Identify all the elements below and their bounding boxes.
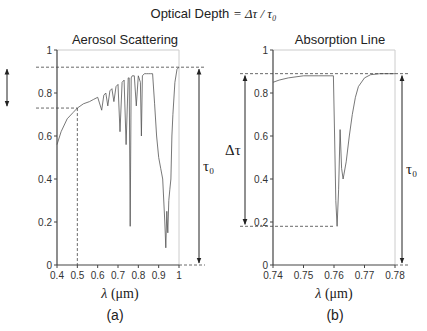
right-y-tick-label: 0 <box>262 260 268 271</box>
unit-label: (μm) <box>107 286 138 301</box>
right-x-tick-label: 0.76 <box>324 270 344 281</box>
left-y-tick-label: 0.2 <box>38 217 52 228</box>
left-y-tick-label: 1 <box>46 45 52 56</box>
left-caption: (a) <box>100 307 130 323</box>
left-x-tick-label: 1 <box>176 270 182 281</box>
right-y-tick-label: 0.6 <box>254 131 268 142</box>
left-x-tick-label: 0.8 <box>131 270 145 281</box>
left-y-tick-label: 0.8 <box>38 88 52 99</box>
left-y-tick-label: 0.4 <box>38 174 52 185</box>
right-x-axis-label: λ (μm) <box>294 286 374 302</box>
left-x-tick-label: 0.4 <box>50 270 64 281</box>
right-y-tick-label: 1 <box>262 45 268 56</box>
right-y-tick-label: 0.8 <box>254 88 268 99</box>
right-data-line <box>273 74 395 227</box>
right-delta-tau-label: Δτ <box>225 142 241 158</box>
right-y-tick-label: 0.2 <box>254 217 268 228</box>
right-x-tick-label: 0.78 <box>385 270 405 281</box>
left-y-tick-label: 0 <box>46 260 52 271</box>
left-y-tick-label: 0.6 <box>38 131 52 142</box>
right-x-tick-label: 0.74 <box>263 270 283 281</box>
left-x-tick-label: 0.5 <box>70 270 84 281</box>
left-x-tick-label: 0.9 <box>152 270 166 281</box>
left-tau0-label: τ₀ <box>203 158 214 174</box>
left-data-line <box>57 67 179 248</box>
right-x-tick-label: 0.77 <box>355 270 375 281</box>
charts-canvas: 00.20.40.60.810.40.50.60.70.80.91Δττ₀00.… <box>0 0 427 331</box>
left-x-axis-label: λ (μm) <box>80 286 160 302</box>
right-tau0-label: τ₀ <box>406 161 417 177</box>
right-caption: (b) <box>320 307 350 323</box>
right-y-tick-label: 0.4 <box>254 174 268 185</box>
left-x-tick-label: 0.7 <box>111 270 125 281</box>
right-x-tick-label: 0.75 <box>294 270 314 281</box>
unit-label: (μm) <box>321 286 352 301</box>
left-x-tick-label: 0.6 <box>91 270 105 281</box>
